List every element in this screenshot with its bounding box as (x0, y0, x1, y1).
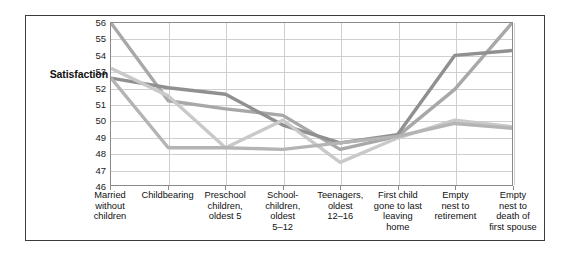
x-tick-mark-4 (340, 186, 341, 190)
line-series-1 (111, 23, 512, 149)
x-tick-label-6: Emptynest toretirement (427, 190, 483, 222)
y-tick-51: 51 (95, 99, 106, 110)
x-tick-mark-0 (110, 186, 111, 190)
y-tick-49: 49 (95, 131, 106, 142)
x-tick-label-5: First childgone to lastleavinghome (370, 190, 426, 232)
plot-area (110, 22, 513, 186)
x-tick-mark-3 (283, 186, 284, 190)
x-tick-mark-1 (168, 186, 169, 190)
y-tick-55: 55 (95, 33, 106, 44)
x-axis-tick-labels: MarriedwithoutchildrenChildbearingPresch… (110, 190, 513, 246)
x-tick-label-1: Childbearing (140, 190, 196, 201)
y-tick-50: 50 (95, 115, 106, 126)
y-tick-47: 47 (95, 164, 106, 175)
chart-figure: Satisfaction 5655545352515049484746 Marr… (0, 0, 569, 262)
gridline-vertical (514, 23, 515, 185)
x-tick-mark-6 (455, 186, 456, 190)
y-tick-48: 48 (95, 148, 106, 159)
x-tick-label-0: Marriedwithoutchildren (82, 190, 138, 222)
y-tick-53: 53 (95, 66, 106, 77)
x-tick-label-3: School-children,oldest5–12 (255, 190, 311, 232)
y-tick-56: 56 (95, 17, 106, 28)
y-axis-tick-labels: 5655545352515049484746 (84, 20, 106, 188)
x-tick-mark-7 (513, 186, 514, 190)
y-tick-54: 54 (95, 49, 106, 60)
y-tick-52: 52 (95, 82, 106, 93)
x-tick-mark-2 (225, 186, 226, 190)
x-tick-label-4: Teenagers,oldest12–16 (312, 190, 368, 222)
line-series-svg (111, 23, 512, 185)
x-tick-label-2: Preschoolchildren,oldest 5 (197, 190, 253, 222)
x-tick-mark-5 (398, 186, 399, 190)
x-tick-label-7: Emptynest todeath offirst spouse (485, 190, 541, 232)
